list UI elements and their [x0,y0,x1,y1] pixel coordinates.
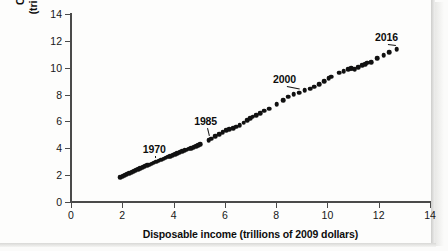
annotation-label-2000: 2000 [273,73,296,85]
data-point [382,53,387,58]
annotation-label-1970: 1970 [143,143,166,155]
y-tick-mark [65,14,71,15]
data-point [329,75,334,80]
x-tick-label: 10 [322,210,334,221]
x-tick-mark [379,202,380,208]
data-point [274,102,279,107]
x-tick-mark [71,202,72,208]
y-tick-label: 12 [50,36,62,47]
y-tick-mark [65,68,71,69]
data-point [198,142,203,147]
data-point [303,88,308,93]
y-axis-title: Consumer spending (trillions of 2009 dol… [14,0,40,40]
y-tick-mark [65,148,71,149]
y-axis-title-wrapper: Consumer spending (trillions of 2009 dol… [20,22,21,23]
scatter-plot-area: 02468101214 02468101214 1970198520002016 [71,14,430,202]
annotation-leader-2000 [286,86,299,89]
x-tick-mark [327,202,328,208]
y-axis-title-line2: (trillions of 2009 dollars) [27,0,39,14]
y-tick-mark [65,121,71,122]
y-tick-mark [65,41,71,42]
y-tick-label: 2 [56,170,62,181]
annotation-label-1985: 1985 [194,115,217,127]
data-point [317,82,322,87]
data-point [375,56,380,61]
data-point [281,98,286,103]
x-tick-label: 6 [222,210,228,221]
annotation-label-2016: 2016 [375,31,398,43]
annotation-leader-1985 [207,128,210,136]
y-tick-mark [65,95,71,96]
x-tick-mark [174,202,175,208]
x-tick-mark [276,202,277,208]
x-tick-label: 14 [424,210,436,221]
figure-page: 02468101214 02468101214 1970198520002016… [0,0,448,251]
y-tick-mark [65,175,71,176]
y-tick-label: 6 [56,116,62,127]
y-tick-label: 10 [50,62,62,73]
y-tick-label: 0 [56,197,62,208]
annotation-leader-2016 [388,44,396,46]
x-tick-label: 0 [68,210,74,221]
data-point [394,47,399,52]
annotation-leader-1970 [155,156,156,158]
data-point [297,90,302,95]
x-tick-mark [225,202,226,208]
y-tick-label: 14 [50,9,62,20]
data-point [267,106,272,111]
data-point [369,60,374,65]
x-tick-label: 2 [119,210,125,221]
page-edge-soft-shadow [435,2,444,246]
x-tick-mark [122,202,123,208]
y-tick-label: 8 [56,89,62,100]
data-point [387,50,392,55]
y-axis-title-line1: Consumer spending [14,0,26,5]
x-tick-label: 12 [373,210,385,221]
page-bottom-edge-shadow [0,243,436,247]
x-axis-title: Disposable income (trillions of 2009 dol… [71,228,430,240]
x-tick-label: 8 [273,210,279,221]
x-tick-label: 4 [171,210,177,221]
data-point [292,92,297,97]
data-point [286,95,291,100]
y-tick-label: 4 [56,143,62,154]
x-tick-mark [430,202,431,208]
